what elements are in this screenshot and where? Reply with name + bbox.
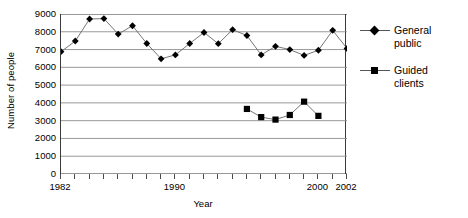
x-tick-mark (146, 174, 147, 179)
x-tick-mark (289, 174, 290, 179)
data-point-diamond (258, 51, 265, 58)
diamond-marker-icon (370, 25, 380, 35)
y-tick-label: 3000 (35, 116, 56, 126)
x-tick-mark (103, 174, 104, 179)
x-tick-mark (60, 174, 61, 179)
x-tick-mark (203, 174, 204, 179)
y-tick-label: 5000 (35, 80, 56, 90)
legend-label-guided-clients: Guided clients (394, 64, 428, 89)
y-tick-label: 8000 (35, 27, 56, 37)
data-point-diamond (244, 32, 251, 39)
square-marker-icon (371, 67, 378, 74)
legend-swatch-diamond (360, 25, 390, 36)
x-axis-tick-labels: 1982199020002002 (0, 182, 468, 196)
data-point-diamond (272, 43, 279, 50)
series-line-guided-clients (247, 102, 319, 120)
x-tick-mark (260, 174, 261, 179)
x-tick-mark (303, 174, 304, 179)
x-tick-mark (246, 174, 247, 179)
x-tick-mark (275, 174, 276, 179)
data-point-square (258, 114, 264, 120)
y-tick-label: 6000 (35, 63, 56, 73)
x-tick-mark (74, 174, 75, 179)
legend-label-general-public: General public (394, 24, 431, 49)
data-point-diamond (72, 38, 79, 45)
y-tick-label: 1000 (35, 151, 56, 161)
x-tick-mark (160, 174, 161, 179)
x-tick-mark (346, 174, 347, 179)
data-point-diamond (86, 16, 93, 23)
x-tick-label: 2000 (307, 182, 328, 192)
x-tick-mark (332, 174, 333, 179)
x-tick-label: 1990 (164, 182, 185, 192)
data-point-square (315, 113, 321, 119)
x-tick-label: 1982 (49, 182, 70, 192)
data-point-diamond (315, 47, 322, 54)
legend-item-guided-clients: Guided clients (360, 64, 466, 90)
y-axis-tick-labels: 0100020003000400050006000700080009000 (18, 0, 58, 180)
chart-legend: General public Guided clients (360, 24, 466, 104)
x-tick-label: 2002 (335, 182, 356, 192)
y-tick-label: 0 (51, 169, 56, 179)
y-tick-label: 2000 (35, 134, 56, 144)
data-point-diamond (286, 46, 293, 53)
x-axis-title: Year (60, 198, 346, 209)
data-point-square (244, 106, 250, 112)
x-tick-mark (117, 174, 118, 179)
data-point-square (301, 99, 307, 105)
data-point-square (287, 112, 293, 118)
x-tick-mark (189, 174, 190, 179)
plot-area (60, 14, 346, 174)
legend-item-general-public: General public (360, 24, 466, 50)
y-tick-label: 9000 (35, 9, 56, 19)
x-tick-mark (89, 174, 90, 179)
x-tick-mark (232, 174, 233, 179)
data-point-diamond (301, 52, 308, 59)
legend-swatch-square (360, 65, 390, 76)
x-tick-mark (132, 174, 133, 179)
x-tick-mark (217, 174, 218, 179)
x-axis-ticks (60, 174, 346, 180)
plot-svg (61, 14, 347, 174)
y-tick-label: 7000 (35, 45, 56, 55)
x-tick-mark (174, 174, 175, 179)
line-chart: Number of people 01000200030004000500060… (0, 0, 468, 218)
data-point-square (272, 117, 278, 123)
x-tick-mark (317, 174, 318, 179)
y-tick-label: 4000 (35, 98, 56, 108)
